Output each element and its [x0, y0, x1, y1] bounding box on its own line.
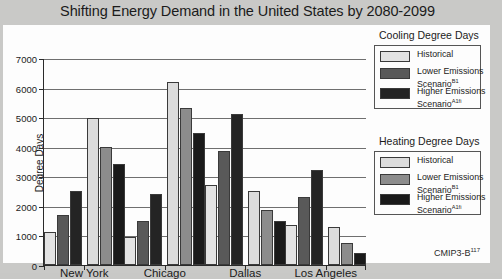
bar — [180, 108, 192, 265]
x-axis-edge-tick — [365, 265, 366, 270]
legend-scenario-superscript: B1 — [452, 78, 459, 84]
bar — [87, 118, 99, 265]
bar — [341, 243, 353, 265]
legend-box: HistoricalLower EmissionsScenarioB1Highe… — [374, 151, 481, 215]
bar — [57, 215, 69, 265]
bar-group — [205, 58, 286, 265]
chart-canvas: Degree Days 0100020003000400050006000700… — [3, 25, 490, 263]
legend-item[interactable]: Historical — [380, 156, 453, 168]
bar — [248, 191, 260, 265]
legend-item-label: Historical — [417, 156, 453, 166]
legend-title: Heating Degree Days — [379, 135, 479, 147]
legend-swatch — [380, 88, 410, 99]
bar — [137, 221, 149, 265]
plot-area: 01000200030004000500060007000 New YorkCh… — [43, 59, 365, 266]
y-axis-tick-label: 4000 — [16, 142, 37, 153]
y-axis-tick-label: 6000 — [16, 83, 37, 94]
legend-item[interactable]: Historical — [380, 50, 453, 62]
bar — [218, 151, 230, 265]
y-axis-tick-label: 1000 — [16, 231, 37, 242]
legend-swatch — [380, 51, 410, 62]
bar — [100, 147, 112, 265]
bar — [311, 170, 323, 265]
bar — [261, 210, 273, 265]
legend-scenario-superscript: A1fi — [452, 98, 462, 104]
legend-swatch — [380, 157, 410, 168]
legend-swatch — [380, 68, 410, 79]
bar-group — [125, 58, 206, 265]
y-axis-tick-label: 0 — [32, 261, 37, 272]
y-axis-tick-label: 3000 — [16, 172, 37, 183]
source-attribution: CMIP3-B117 — [434, 247, 480, 258]
legend-swatch — [380, 194, 410, 205]
bar-group — [286, 58, 367, 265]
bar — [150, 194, 162, 265]
x-axis-edge-tick — [44, 265, 45, 270]
legend-item-label: Higher EmissionsScenarioA1fi — [417, 87, 485, 109]
bar — [328, 227, 340, 265]
page-title: Shifting Energy Demand in the United Sta… — [0, 3, 495, 19]
bar — [205, 185, 217, 265]
bar — [231, 114, 243, 265]
bar — [124, 237, 136, 265]
x-axis-tick — [84, 265, 85, 270]
legend-scenario-superscript: A1fi — [452, 204, 462, 210]
legend-title: Cooling Degree Days — [379, 29, 479, 41]
bar — [354, 253, 366, 265]
x-axis-tick — [326, 265, 327, 270]
legend-item[interactable]: Higher EmissionsScenarioA1fi — [380, 193, 485, 215]
legend-swatch — [380, 174, 410, 185]
y-axis-tick-label: 2000 — [16, 201, 37, 212]
legend-item[interactable]: Higher EmissionsScenarioA1fi — [380, 87, 485, 109]
source-label: CMIP3-B — [434, 248, 471, 258]
plot-wrapper: Degree Days 0100020003000400050006000700… — [43, 59, 365, 266]
bar — [285, 225, 297, 265]
legend-scenario-superscript: B1 — [452, 184, 459, 190]
legend-item-label: Historical — [417, 50, 453, 60]
bar — [70, 191, 82, 265]
x-axis-tick — [165, 265, 166, 270]
bar — [298, 197, 310, 265]
source-superscript: 117 — [470, 247, 480, 253]
bar — [44, 232, 56, 265]
y-axis-tick-label: 5000 — [16, 113, 37, 124]
y-axis-tick-label: 7000 — [16, 54, 37, 65]
legend-item-label: Higher EmissionsScenarioA1fi — [417, 193, 485, 215]
bar-series-container: New YorkChicagoDallasLos Angeles — [44, 58, 366, 265]
bar — [167, 82, 179, 265]
bar-group — [44, 58, 125, 265]
title-band: Shifting Energy Demand in the United Sta… — [0, 0, 502, 25]
x-axis-tick — [245, 265, 246, 270]
legend-box: HistoricalLower EmissionsScenarioB1Highe… — [374, 45, 481, 109]
